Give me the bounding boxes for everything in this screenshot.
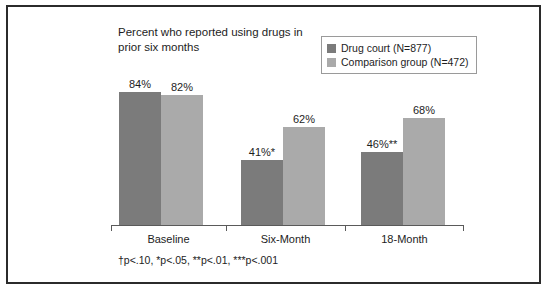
x-axis-tick-end bbox=[463, 225, 464, 231]
x-axis-label-six-month: Six-Month bbox=[226, 233, 345, 245]
x-axis-line bbox=[111, 225, 464, 226]
bar-comparison-six-month: 62% bbox=[283, 127, 325, 225]
x-axis-label-baseline: Baseline bbox=[111, 233, 226, 245]
legend-item-drug-court: Drug court (N=877) bbox=[327, 41, 469, 55]
bar-group-six-month: 41%* 62% bbox=[226, 67, 344, 225]
bar-value-drug-court-18-month: 46%** bbox=[367, 138, 398, 150]
bar-value-comparison-baseline: 82% bbox=[171, 81, 193, 93]
bar-comparison-18-month: 68% bbox=[403, 118, 445, 225]
legend-label-drug-court: Drug court (N=877) bbox=[341, 42, 431, 54]
bar-drug-court-18-month: 46%** bbox=[361, 152, 403, 225]
bar-group-baseline: 84% 82% bbox=[111, 67, 221, 225]
bar-value-drug-court-six-month: 41%* bbox=[249, 146, 275, 158]
bar-value-drug-court-baseline: 84% bbox=[129, 78, 151, 90]
chart-figure: Percent who reported using drugs in prio… bbox=[0, 0, 547, 290]
x-axis-tick-1 bbox=[226, 225, 227, 231]
x-axis-tick-start bbox=[111, 225, 112, 231]
bar-value-comparison-six-month: 62% bbox=[293, 113, 315, 125]
bar-value-comparison-18-month: 68% bbox=[413, 104, 435, 116]
legend-swatch-drug-court bbox=[327, 44, 336, 53]
x-axis-tick-2 bbox=[345, 225, 346, 231]
bar-drug-court-six-month: 41%* bbox=[241, 160, 283, 225]
legend-swatch-comparison-group bbox=[327, 58, 336, 67]
plot-area: 84% 82% 41%* 62% 46%** bbox=[111, 67, 464, 225]
bar-drug-court-baseline: 84% bbox=[119, 92, 161, 225]
figure-frame: Percent who reported using drugs in prio… bbox=[6, 5, 541, 284]
bar-group-18-month: 46%** 68% bbox=[349, 67, 467, 225]
x-axis-label-18-month: 18-Month bbox=[345, 233, 464, 245]
significance-footnote: †p<.10, *p<.05, **p<.01, ***p<.001 bbox=[118, 254, 278, 266]
bar-comparison-baseline: 82% bbox=[161, 95, 203, 225]
chart-title: Percent who reported using drugs in prio… bbox=[118, 25, 333, 54]
